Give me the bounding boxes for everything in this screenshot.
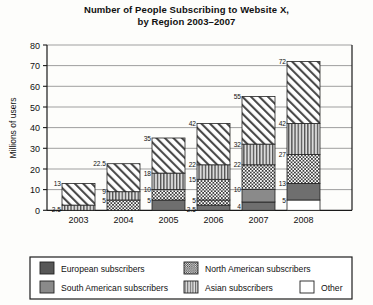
x-tick-label: 2007	[248, 215, 268, 225]
legend-label-south-american[interactable]: South American subscribers	[61, 283, 168, 293]
bar-segment-european[interactable]	[242, 202, 275, 210]
x-tick-label: 2005	[158, 215, 178, 225]
x-tick-labels: 2003 2004 2005 2006 2007 2008	[68, 215, 313, 225]
value-label: 2.5	[52, 206, 61, 213]
value-label: 72	[279, 58, 287, 65]
bar-segment-asian[interactable]	[152, 173, 185, 190]
bar-group-2003[interactable]	[62, 183, 95, 210]
legend-label-asian[interactable]: Asian subscribers	[205, 283, 273, 293]
bar-segment-european[interactable]	[152, 200, 185, 210]
bar-segment-south-american[interactable]	[62, 183, 95, 205]
bar-segment-other[interactable]	[287, 200, 320, 210]
value-label: 5	[147, 197, 151, 204]
value-label: 42	[189, 120, 197, 127]
y-tick-label: 0	[35, 206, 40, 216]
legend-swatch-other-icon	[300, 281, 314, 293]
value-label: 9	[102, 188, 106, 195]
bar-group-2004[interactable]	[107, 164, 140, 211]
x-tick-label: 2004	[113, 215, 133, 225]
bar-segment-north-american[interactable]	[287, 155, 320, 184]
value-label: 35	[144, 135, 152, 142]
bar-segment-south-american[interactable]	[152, 138, 185, 173]
value-label: 27	[279, 151, 287, 158]
x-tick-label: 2008	[293, 215, 313, 225]
bar-group-2005[interactable]	[152, 138, 185, 210]
legend-swatch-asian-icon	[184, 281, 198, 293]
y-tick-label: 60	[30, 82, 40, 92]
chart-svg: 80 70 60 50 40 30 20 10 0 Millions of us…	[0, 0, 373, 305]
bar-segment-north-american[interactable]	[107, 200, 140, 210]
value-label: 10	[144, 186, 152, 193]
value-label: 10	[234, 186, 242, 193]
bar-segment-asian[interactable]	[197, 165, 230, 180]
value-label: 18	[144, 170, 152, 177]
bar-segment-north-american[interactable]	[197, 179, 230, 200]
value-label: 22	[234, 161, 242, 168]
value-label: 13	[279, 180, 287, 187]
legend-label-european[interactable]: European subscribers	[61, 264, 145, 274]
y-tick-label: 50	[30, 103, 40, 113]
bar-segment-european-upper[interactable]	[242, 190, 275, 202]
bar-segment-asian[interactable]	[242, 144, 275, 165]
y-tick-label: 40	[30, 123, 40, 133]
y-axis-label: Millions of users	[8, 98, 18, 159]
value-label: 55	[234, 93, 242, 100]
bar-segment-north-american[interactable]	[242, 165, 275, 190]
bar-group-2007[interactable]	[242, 97, 275, 211]
y-tick-label: 10	[30, 185, 40, 195]
bar-segment-european[interactable]	[197, 205, 230, 210]
bar-group-2006[interactable]	[197, 124, 230, 211]
x-tick-label: 2006	[203, 215, 223, 225]
value-label: 5	[282, 197, 286, 204]
legend-swatch-european-icon	[40, 262, 54, 274]
y-tick-label: 80	[30, 41, 40, 51]
bar-segment-south-american[interactable]	[242, 97, 275, 145]
value-label: 15	[189, 176, 197, 183]
y-tick-label: 70	[30, 61, 40, 71]
bar-segment-south-american[interactable]	[197, 124, 230, 165]
value-label: 22.5	[93, 160, 106, 167]
chart-legend: European subscribers North American subs…	[30, 257, 352, 299]
legend-swatch-north-american-icon	[184, 262, 198, 274]
y-tick-label: 20	[30, 165, 40, 175]
bar-segment-south-american[interactable]	[287, 62, 320, 124]
y-tick-labels: 80 70 60 50 40 30 20 10 0	[30, 41, 40, 216]
bar-segment-asian[interactable]	[287, 124, 320, 155]
value-label: 5	[102, 197, 106, 204]
chart-container: Number of People Subscribing to Website …	[0, 0, 373, 305]
value-label: 22	[189, 161, 197, 168]
value-label: 13	[54, 180, 62, 187]
bar-segment-asian[interactable]	[62, 205, 95, 210]
value-label: 4	[237, 203, 241, 210]
value-label: 5	[192, 197, 196, 204]
bar-segment-north-american[interactable]	[152, 190, 185, 200]
value-label: 2.5	[187, 206, 196, 213]
legend-swatch-south-american-icon	[40, 281, 54, 293]
bar-segment-other-low[interactable]	[197, 200, 230, 205]
value-label: 32	[234, 141, 242, 148]
value-label: 42	[279, 120, 287, 127]
bar-segment-asian[interactable]	[107, 192, 140, 200]
legend-label-north-american[interactable]: North American subscribers	[205, 264, 311, 274]
x-tick-label: 2003	[68, 215, 88, 225]
legend-label-other[interactable]: Other	[321, 283, 343, 293]
bar-group-2008[interactable]	[287, 62, 320, 211]
bar-segment-south-american[interactable]	[107, 164, 140, 192]
y-tick-label: 30	[30, 144, 40, 154]
bar-segment-european[interactable]	[287, 183, 320, 200]
